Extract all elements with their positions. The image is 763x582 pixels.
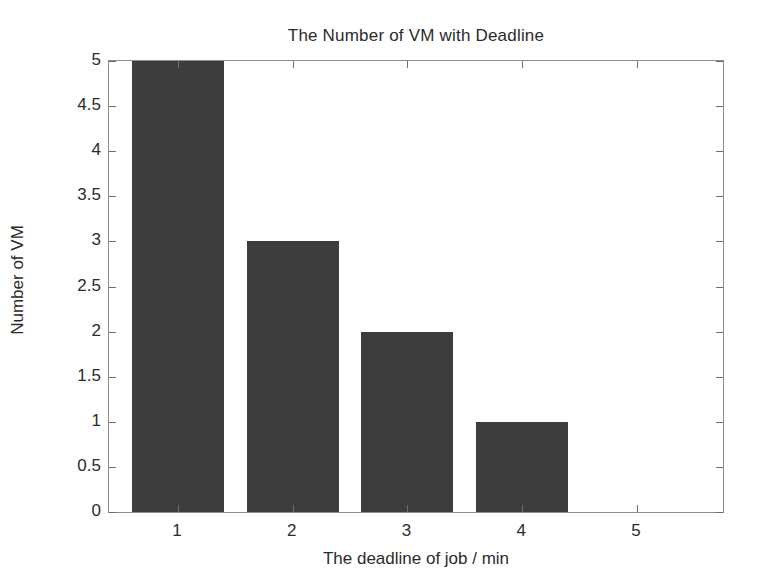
y-tick-mark	[109, 61, 116, 62]
y-tick-label: 1.5	[77, 366, 101, 386]
y-tick-mark	[716, 196, 723, 197]
y-axis-title: Number of VM	[8, 180, 28, 380]
y-tick-mark	[109, 151, 116, 152]
y-tick-label: 2	[92, 321, 101, 341]
y-tick-label: 0.5	[77, 456, 101, 476]
x-axis-tick-labels: 12345	[108, 521, 724, 545]
y-tick-mark	[109, 422, 116, 423]
x-tick-label: 3	[402, 521, 411, 541]
x-tick-label: 5	[631, 521, 640, 541]
plot-inner	[109, 61, 723, 512]
y-tick-mark	[716, 151, 723, 152]
y-tick-mark	[109, 241, 116, 242]
y-tick-mark	[716, 332, 723, 333]
y-tick-label: 4	[92, 140, 101, 160]
x-tick-label: 2	[287, 521, 296, 541]
x-tick-label: 1	[172, 521, 181, 541]
y-tick-mark	[109, 377, 116, 378]
y-tick-label: 3	[92, 230, 101, 250]
x-tick-mark	[522, 61, 523, 68]
y-tick-mark	[109, 287, 116, 288]
y-tick-mark	[109, 196, 116, 197]
x-tick-mark	[637, 505, 638, 512]
x-axis-title: The deadline of job / min	[108, 549, 724, 569]
x-tick-mark	[407, 505, 408, 512]
bar-4	[476, 422, 568, 512]
plot-area	[108, 60, 724, 513]
chart-figure: The Number of VM with Deadline 00.511.52…	[0, 0, 763, 582]
y-tick-mark	[716, 241, 723, 242]
bar-3	[361, 332, 453, 512]
x-tick-mark	[637, 61, 638, 68]
y-tick-label: 3.5	[77, 185, 101, 205]
x-tick-mark	[293, 505, 294, 512]
y-tick-mark	[716, 61, 723, 62]
y-tick-label: 0	[92, 501, 101, 521]
bar-1	[132, 61, 224, 512]
bar-2	[247, 241, 339, 512]
y-tick-label: 4.5	[77, 95, 101, 115]
y-tick-mark	[109, 512, 116, 513]
y-tick-label: 1	[92, 411, 101, 431]
x-tick-mark	[293, 61, 294, 68]
y-tick-mark	[109, 106, 116, 107]
x-tick-mark	[522, 505, 523, 512]
y-tick-mark	[716, 422, 723, 423]
chart-title: The Number of VM with Deadline	[108, 26, 724, 46]
y-tick-mark	[716, 377, 723, 378]
x-tick-mark	[178, 61, 179, 68]
y-tick-mark	[716, 512, 723, 513]
x-tick-mark	[407, 61, 408, 68]
y-tick-mark	[716, 106, 723, 107]
y-tick-label: 2.5	[77, 276, 101, 296]
y-axis-tick-labels: 00.511.522.533.544.55	[44, 60, 101, 513]
y-tick-mark	[716, 467, 723, 468]
y-tick-label: 5	[92, 50, 101, 70]
y-tick-mark	[109, 332, 116, 333]
x-tick-mark	[178, 505, 179, 512]
y-tick-mark	[716, 287, 723, 288]
y-tick-mark	[109, 467, 116, 468]
x-tick-label: 4	[516, 521, 525, 541]
